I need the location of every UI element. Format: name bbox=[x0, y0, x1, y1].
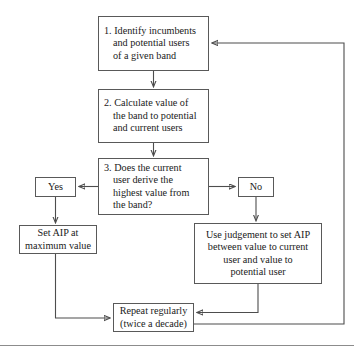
node-use-judgement-label: Use judgement to set AIP between value t… bbox=[203, 229, 313, 279]
node-no-branch-label: No bbox=[247, 181, 265, 193]
node-calculate-value-label: 2. Calculate value of the band to potent… bbox=[108, 97, 199, 134]
node-repeat-regularly[interactable]: Repeat regularly (twice a decade) bbox=[113, 303, 194, 332]
node-decision-highest-value[interactable]: 3. Does the current user derive the high… bbox=[98, 158, 209, 215]
node-calculate-value[interactable]: 2. Calculate value of the band to potent… bbox=[98, 89, 209, 143]
flowchart-canvas: 1. Identify incumbents and potential use… bbox=[0, 0, 354, 353]
edge-judgement-to-repeat bbox=[197, 284, 258, 313]
node-set-aip-maximum[interactable]: Set AIP at maximum value bbox=[19, 225, 97, 254]
node-decision-highest-value-label: 3. Does the current user derive the high… bbox=[108, 162, 192, 212]
bottom-divider-rule bbox=[0, 345, 354, 346]
node-no-branch[interactable]: No bbox=[238, 177, 274, 197]
node-identify-incumbents-label: 1. Identify incumbents and potential use… bbox=[108, 25, 199, 62]
edge-setaip-to-repeat bbox=[56, 254, 111, 318]
node-repeat-regularly-label: Repeat regularly (twice a decade) bbox=[117, 305, 191, 330]
node-yes-branch-label: Yes bbox=[45, 181, 66, 193]
node-identify-incumbents[interactable]: 1. Identify incumbents and potential use… bbox=[98, 16, 209, 71]
node-yes-branch[interactable]: Yes bbox=[35, 177, 76, 197]
node-set-aip-maximum-label: Set AIP at maximum value bbox=[22, 227, 94, 252]
node-use-judgement[interactable]: Use judgement to set AIP between value t… bbox=[194, 223, 322, 284]
